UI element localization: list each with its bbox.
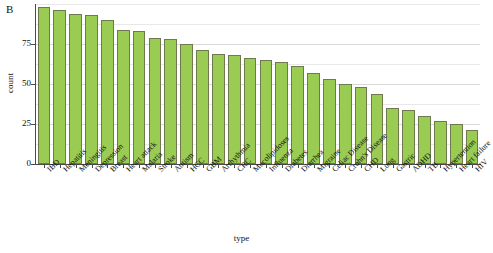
x-tick-mark <box>107 165 108 168</box>
bar <box>133 31 146 164</box>
x-tick-mark <box>171 165 172 168</box>
bar <box>38 7 51 164</box>
y-tick-mark <box>31 164 35 165</box>
bar <box>212 54 225 164</box>
x-tick-mark <box>377 165 378 168</box>
x-tick-mark <box>203 165 204 168</box>
y-tick-mark <box>31 124 35 125</box>
x-tick-mark <box>234 165 235 168</box>
x-tick-mark <box>218 165 219 168</box>
bar <box>196 50 209 164</box>
bar <box>53 10 66 164</box>
bar <box>69 14 82 164</box>
x-tick-mark <box>472 165 473 168</box>
gridline <box>36 4 480 5</box>
y-tick-label: 75 <box>3 39 31 48</box>
x-tick-mark <box>440 165 441 168</box>
x-tick-mark <box>425 165 426 168</box>
x-axis-category-labels: IBDHepatitisMeningitisDepressionBreastHe… <box>36 168 483 232</box>
y-tick-label: 25 <box>3 119 31 128</box>
x-tick-mark <box>139 165 140 168</box>
x-axis-title: type <box>0 233 483 243</box>
x-tick-mark <box>314 165 315 168</box>
y-tick-mark <box>31 44 35 45</box>
x-tick-mark <box>76 165 77 168</box>
bar <box>101 20 114 164</box>
x-tick-mark <box>155 165 156 168</box>
bar <box>85 15 98 164</box>
x-tick-mark <box>345 165 346 168</box>
plot-area <box>36 4 480 164</box>
bar <box>180 44 193 164</box>
x-tick-mark <box>361 165 362 168</box>
y-tick-label: 0 <box>3 159 31 168</box>
x-tick-mark <box>266 165 267 168</box>
x-tick-mark <box>60 165 61 168</box>
x-tick-mark <box>123 165 124 168</box>
x-tick-mark <box>282 165 283 168</box>
x-tick-mark <box>44 165 45 168</box>
x-tick-mark <box>456 165 457 168</box>
bar <box>434 121 447 164</box>
x-tick-mark <box>298 165 299 168</box>
x-tick-mark <box>92 165 93 168</box>
x-tick-mark <box>393 165 394 168</box>
bar <box>164 39 177 164</box>
x-tick-mark <box>409 165 410 168</box>
y-tick-mark <box>31 84 35 85</box>
x-tick-mark <box>187 165 188 168</box>
x-tick-mark <box>250 165 251 168</box>
x-tick-mark <box>329 165 330 168</box>
y-tick-label: 50 <box>3 79 31 88</box>
y-axis-tick-labels: 0255075 <box>0 0 31 253</box>
